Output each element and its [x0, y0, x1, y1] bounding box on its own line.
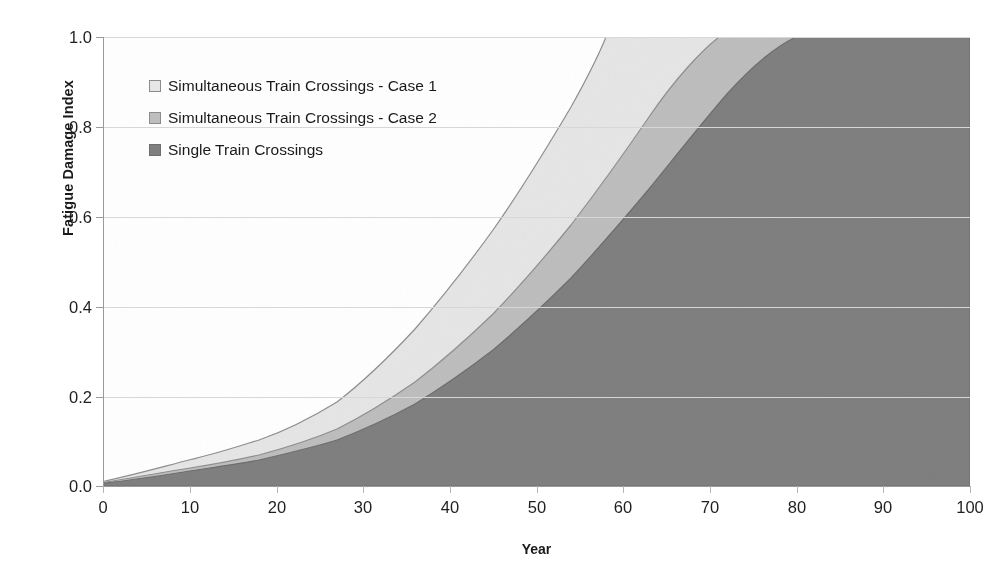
legend-swatch-icon-case-1: [149, 80, 161, 92]
x-tickmark: [623, 486, 624, 493]
y-tick-label-6: 0.0: [44, 477, 92, 496]
gridline-0-4: [103, 307, 970, 308]
x-tick-label-60: 60: [614, 498, 632, 517]
x-tickmark: [883, 486, 884, 493]
y-tick-label-4: 0.4: [44, 298, 92, 317]
x-tick-label-10: 10: [181, 498, 199, 517]
x-tick-label-90: 90: [874, 498, 892, 517]
fatigue-damage-index-chart: Fatigue Damage Index 1.0 0.8 0.6 0.4 0.2…: [0, 0, 1008, 579]
chart-legend: Simultaneous Train Crossings - Case 1 Si…: [149, 70, 437, 166]
x-tick-label-80: 80: [788, 498, 806, 517]
x-tick-label-100: 100: [956, 498, 984, 517]
legend-item-single-train[interactable]: Single Train Crossings: [149, 134, 437, 166]
x-tickmark: [970, 486, 971, 493]
y-tick-label-1: 1.0: [44, 28, 92, 47]
gridline-0-6: [103, 217, 970, 218]
x-tick-label-20: 20: [268, 498, 286, 517]
y-tick-label-5: 0.2: [44, 388, 92, 407]
legend-swatch-icon-case-2: [149, 112, 161, 124]
x-tick-label-50: 50: [528, 498, 546, 517]
y-tick-label-2: 0.8: [44, 118, 92, 137]
x-tickmark: [710, 486, 711, 493]
x-tickmark: [277, 486, 278, 493]
x-tickmark: [537, 486, 538, 493]
legend-swatch-icon-single-train: [149, 144, 161, 156]
x-axis-title: Year: [103, 541, 970, 557]
x-tickmark: [450, 486, 451, 493]
y-tick-label-3: 0.6: [44, 208, 92, 227]
x-tick-label-0: 0: [98, 498, 107, 517]
x-tick-label-40: 40: [441, 498, 459, 517]
x-tickmark: [190, 486, 191, 493]
legend-label-single-train: Single Train Crossings: [168, 142, 323, 158]
y-axis-line: [103, 37, 104, 486]
gridline-1-0: [103, 37, 970, 38]
legend-item-case-1[interactable]: Simultaneous Train Crossings - Case 1: [149, 70, 437, 102]
gridline-0-2: [103, 397, 970, 398]
y-tick-labels: 1.0 0.8 0.6 0.4 0.2 0.0: [40, 0, 92, 579]
legend-label-case-1: Simultaneous Train Crossings - Case 1: [168, 78, 437, 94]
x-tick-label-30: 30: [354, 498, 372, 517]
legend-item-case-2[interactable]: Simultaneous Train Crossings - Case 2: [149, 102, 437, 134]
legend-label-case-2: Simultaneous Train Crossings - Case 2: [168, 110, 437, 126]
x-tickmark: [797, 486, 798, 493]
x-tick-label-70: 70: [701, 498, 719, 517]
x-tickmark: [103, 486, 104, 493]
x-tickmark: [363, 486, 364, 493]
